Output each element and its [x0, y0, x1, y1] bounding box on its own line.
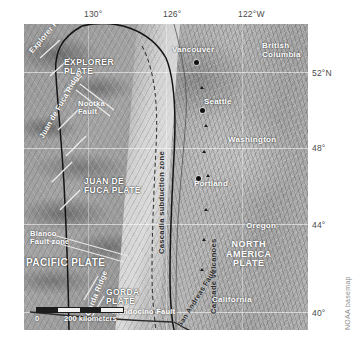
juan-de-fuca-ridge-line [52, 110, 86, 210]
volcano-marker-icon [206, 174, 210, 177]
longitude-label-130: 130° [84, 9, 102, 19]
basemap-credit: NOAA basemap [344, 276, 351, 330]
latitude-label-52n: 52°N [312, 68, 332, 78]
volcano-marker-icon [204, 208, 208, 211]
cascadia-tectonic-map-figure: 130° 126° 122°W 52°N 48° 44° 40° NOAA ba… [0, 0, 356, 354]
nootka-fault-line [76, 84, 114, 116]
volcano-marker-icon [200, 86, 204, 89]
explorer-ridge-segments [40, 40, 82, 92]
longitude-label-126: 126° [163, 9, 181, 19]
city-dot-vancouver [194, 60, 199, 65]
plate-boundary-outline [82, 24, 175, 330]
scale-bar: 0 200 kilometers [36, 307, 124, 314]
latitude-label-44: 44° [312, 220, 325, 230]
scale-zero-label: 0 [35, 314, 39, 323]
latitude-label-40: 40° [312, 308, 325, 318]
map-panel: EXPLORER PLATE JUAN DE FUCA PLATE PACIFI… [24, 24, 308, 330]
tectonic-overlay [24, 24, 308, 330]
scale-distance-label: 200 kilometers [64, 314, 117, 323]
plate-boundary-outline-west [56, 26, 82, 330]
cascadia-trench [142, 46, 157, 330]
san-andreas-fault-line [174, 322, 210, 330]
volcano-marker-icon [200, 268, 204, 271]
longitude-label-122w: 122°W [238, 9, 265, 19]
scale-bar-graphic [36, 307, 124, 313]
coastline [174, 24, 186, 330]
city-dot-seattle [200, 108, 205, 113]
volcano-marker-icon [204, 124, 208, 127]
volcano-marker-icon [202, 238, 206, 241]
city-dot-portland [196, 176, 201, 181]
blanco-fault-zone-line [46, 234, 128, 262]
volcano-marker-icon [202, 150, 206, 153]
latitude-label-48: 48° [312, 143, 325, 153]
